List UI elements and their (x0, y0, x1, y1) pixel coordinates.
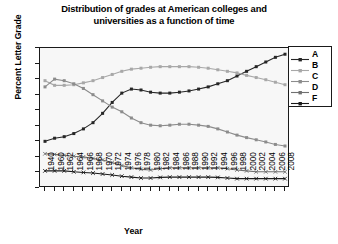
x-tick-label: 1964 (76, 152, 84, 192)
legend-item-B[interactable]: B (290, 60, 329, 71)
data-point (82, 127, 85, 130)
x-tick-label: 1990 (201, 152, 209, 192)
data-point (236, 75, 239, 78)
x-tick-mark (102, 187, 103, 191)
data-point (159, 124, 162, 127)
data-point (44, 85, 47, 88)
data-point (44, 79, 47, 82)
x-tick-label: 1976 (134, 152, 142, 192)
data-point (188, 89, 191, 92)
data-point (130, 88, 133, 91)
data-point (92, 93, 95, 96)
x-tick-mark (63, 187, 64, 191)
x-tick-mark (178, 187, 179, 191)
legend-swatch-icon (290, 72, 310, 81)
x-tick-mark (265, 187, 266, 191)
data-point (120, 92, 123, 95)
x-tick-mark (111, 187, 112, 191)
data-point (120, 110, 123, 113)
data-point (255, 76, 258, 79)
data-point (207, 67, 210, 70)
legend-item-F[interactable]: F (290, 93, 329, 104)
x-tick-mark (226, 187, 227, 191)
legend-label: B (310, 61, 318, 70)
data-point (149, 124, 152, 127)
data-point (168, 65, 171, 68)
x-tick-mark (217, 187, 218, 191)
legend-label: A (310, 50, 318, 59)
x-tick-mark (207, 187, 208, 191)
x-tick-label: 1960 (57, 152, 65, 192)
data-point (111, 73, 114, 76)
data-point (53, 137, 56, 140)
data-point (82, 81, 85, 84)
x-tick-mark (246, 187, 247, 191)
data-point (72, 82, 75, 85)
legend-label: C (310, 72, 318, 81)
data-point (111, 101, 114, 104)
data-point (101, 112, 104, 115)
data-point (149, 66, 152, 69)
data-point (274, 56, 277, 59)
data-point (72, 132, 75, 135)
x-axis-title: Year (124, 226, 143, 236)
legend-item-A[interactable]: A (290, 49, 329, 60)
x-tick-label: 1992 (210, 152, 218, 192)
y-tick-mark (35, 187, 39, 188)
data-point (284, 53, 287, 56)
x-tick-label: 1970 (105, 152, 113, 192)
legend-swatch-icon (290, 94, 310, 103)
data-point (101, 99, 104, 102)
data-point (207, 85, 210, 88)
data-point (111, 106, 114, 109)
legend-label: F (310, 94, 317, 103)
data-point (159, 65, 162, 68)
data-point (178, 123, 181, 126)
chart-title-line-1: Distribution of grades at American colle… (14, 3, 314, 15)
data-point (197, 66, 200, 69)
data-point (284, 145, 287, 148)
x-tick-mark (274, 187, 275, 191)
x-tick-mark (54, 187, 55, 191)
data-point (53, 78, 56, 81)
data-point (82, 87, 85, 90)
x-tick-mark (169, 187, 170, 191)
x-tick-mark (159, 187, 160, 191)
data-point (236, 134, 239, 137)
data-point (216, 127, 219, 130)
data-point (178, 91, 181, 94)
x-tick-mark (236, 187, 237, 191)
x-tick-label: 2006 (278, 152, 286, 192)
data-point (53, 84, 56, 87)
series-C (44, 78, 287, 148)
data-point (226, 79, 229, 82)
x-tick-label: 1986 (182, 152, 190, 192)
data-point (216, 82, 219, 85)
data-point (140, 67, 143, 70)
legend-item-D[interactable]: D (290, 82, 329, 93)
data-point (63, 79, 66, 82)
data-point (63, 135, 66, 138)
x-tick-mark (44, 187, 45, 191)
x-tick-label: 1968 (95, 152, 103, 192)
data-point (188, 65, 191, 68)
x-tick-label: 2008 (287, 152, 295, 192)
x-tick-label: 1980 (153, 152, 161, 192)
x-tick-mark (140, 187, 141, 191)
data-point (178, 65, 181, 68)
x-tick-mark (188, 187, 189, 191)
legend-item-C[interactable]: C (290, 71, 329, 82)
data-point (264, 61, 267, 64)
x-tick-label: 2004 (268, 152, 276, 192)
data-point (159, 92, 162, 95)
data-point (197, 124, 200, 127)
x-tick-label: 1962 (66, 152, 74, 192)
legend-swatch-icon (290, 61, 310, 70)
legend: ABCDF (288, 46, 332, 107)
y-axis-title: Percent Letter Grade (13, 0, 23, 127)
x-tick-label: 1996 (230, 152, 238, 192)
x-tick-label: 2002 (258, 152, 266, 192)
x-tick-label: 1994 (220, 152, 228, 192)
legend-label: D (310, 83, 318, 92)
data-point (274, 143, 277, 146)
